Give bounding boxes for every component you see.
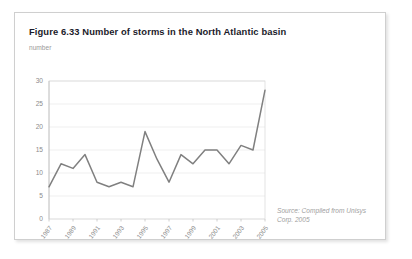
source-note: Source: Compiled from Unisys Corp. 2005 bbox=[277, 206, 373, 225]
x-tick-label: 1997 bbox=[159, 224, 174, 240]
x-tick-label: 1989 bbox=[63, 224, 78, 240]
y-axis-unit-label: number bbox=[29, 44, 51, 51]
x-axis-tick-labels: 1987198919911993199519971999200120032005 bbox=[39, 224, 270, 240]
grid-lines bbox=[49, 81, 265, 219]
storms-data-line bbox=[49, 90, 265, 187]
figure-frame: Figure 6.33 Number of storms in the Nort… bbox=[14, 12, 386, 240]
y-tick-label: 10 bbox=[36, 169, 44, 176]
x-tick-label: 1999 bbox=[183, 224, 198, 240]
x-tick-label: 2003 bbox=[231, 224, 246, 240]
y-tick-label: 15 bbox=[36, 146, 44, 153]
x-tick-label: 1993 bbox=[111, 224, 126, 240]
y-tick-label: 0 bbox=[39, 215, 43, 222]
y-tick-label: 30 bbox=[36, 77, 44, 84]
x-tick-label: 1991 bbox=[87, 224, 102, 240]
x-tick-label: 1995 bbox=[135, 224, 150, 240]
x-tick-label: 2005 bbox=[255, 224, 270, 240]
x-tick-label: 1987 bbox=[39, 224, 54, 240]
y-tick-label: 20 bbox=[36, 123, 44, 130]
page-title: Figure 6.33 Number of storms in the Nort… bbox=[29, 26, 286, 37]
y-axis-tick-labels: 051015202530 bbox=[36, 77, 44, 222]
x-tick-label: 2001 bbox=[207, 224, 222, 240]
y-tick-label: 5 bbox=[39, 192, 43, 199]
y-tick-label: 25 bbox=[36, 100, 44, 107]
